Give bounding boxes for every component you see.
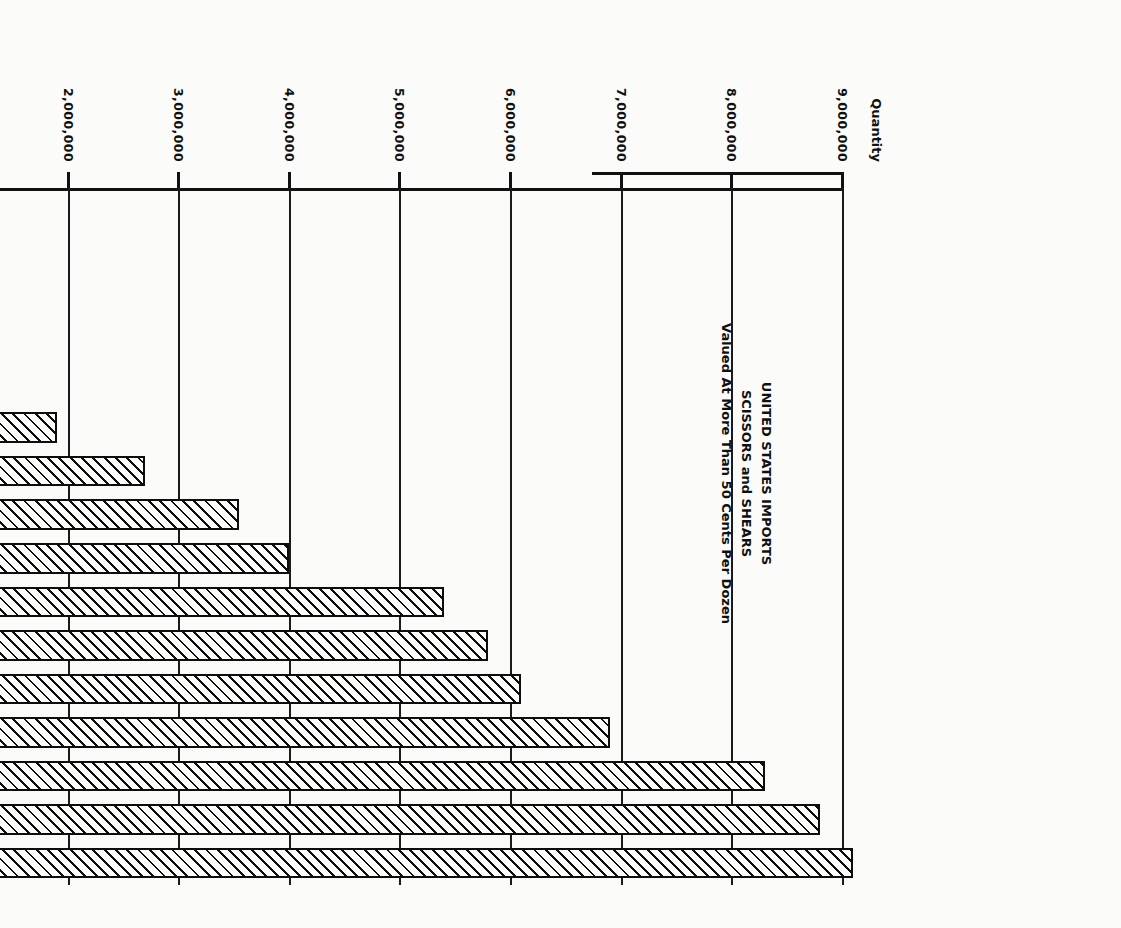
- value-axis-tick: [177, 172, 180, 188]
- plot-area: [0, 188, 842, 885]
- value-axis-tick-label: 8,000,000: [724, 88, 739, 162]
- value-axis-tick: [509, 172, 512, 188]
- value-axis-tick: [67, 172, 70, 188]
- value-axis-tick-label: 2,000,000: [60, 88, 75, 162]
- bar: [0, 761, 765, 791]
- chart-figure: UNITED STATES IMPORTS SCISSORS and SHEAR…: [0, 0, 928, 928]
- value-axis-tick: [399, 172, 402, 188]
- value-axis-tick-label: 4,000,000: [281, 88, 296, 162]
- value-axis-tick: [288, 172, 291, 188]
- value-gridline: [842, 188, 844, 885]
- bar: [0, 630, 488, 660]
- value-axis-tick: [841, 172, 844, 188]
- bar: [0, 412, 57, 442]
- bar: [0, 674, 521, 704]
- value-axis-tick-label: 5,000,000: [392, 88, 407, 162]
- value-axis-tick: [620, 172, 623, 188]
- bar: [0, 499, 239, 529]
- rotated-page-canvas: UNITED STATES IMPORTS SCISSORS and SHEAR…: [0, 0, 928, 928]
- bar: [0, 848, 853, 878]
- value-axis-tick: [730, 172, 733, 188]
- value-axis-tick-label: 7,000,000: [613, 88, 628, 162]
- category-axis-outer-spine: [592, 172, 842, 175]
- bar: [0, 543, 289, 573]
- bar: [0, 456, 145, 486]
- bar: [0, 804, 820, 834]
- value-axis-tick-label: 6,000,000: [503, 88, 518, 162]
- bar: [0, 717, 610, 747]
- category-axis-spine: [0, 188, 842, 191]
- bar: [0, 587, 444, 617]
- y-axis-title: Quantity: [869, 98, 884, 162]
- value-axis-tick-label: 9,000,000: [835, 88, 850, 162]
- value-axis-tick-label: 3,000,000: [171, 88, 186, 162]
